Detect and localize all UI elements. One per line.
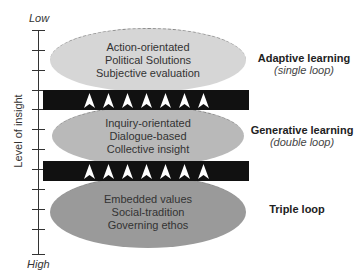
label-subtitle: (double loop)	[246, 136, 358, 148]
generative-learning-label: Generative learning (double loop)	[246, 124, 358, 148]
arrow-up-icon	[103, 164, 114, 179]
axis-high-label: High	[27, 258, 50, 270]
axis-tick	[32, 50, 45, 51]
layer-line: Action-orientated	[96, 41, 200, 54]
axis-tick	[32, 189, 45, 190]
label-subtitle: (single loop)	[250, 64, 358, 76]
axis-tick	[32, 129, 45, 130]
arrow-up-icon	[84, 93, 95, 108]
axis-tick	[32, 229, 45, 230]
axis-low-label: Low	[29, 12, 49, 24]
layer-line: Embedded values	[104, 193, 192, 206]
axis-tick	[32, 70, 45, 71]
layer-line: Governing ethos	[104, 219, 192, 232]
transition-band-upper	[43, 90, 249, 110]
arrow-up-icon	[198, 164, 209, 179]
arrow-up-icon	[198, 93, 209, 108]
layer-line: Collective insight	[105, 143, 191, 156]
adaptive-layer-ellipse: Action-orientated Political Solutions Su…	[50, 28, 246, 92]
axis-tick	[32, 254, 45, 255]
layer-line: Inquiry-orientated	[105, 117, 191, 130]
layer-line: Political Solutions	[96, 54, 200, 67]
arrow-up-icon	[160, 93, 171, 108]
arrow-up-icon	[122, 93, 133, 108]
layer-line: Dialogue-based	[105, 130, 191, 143]
arrow-up-icon	[160, 164, 171, 179]
layer-line: Social-tradition	[104, 206, 192, 219]
arrow-up-icon	[141, 93, 152, 108]
arrow-up-icon	[84, 164, 95, 179]
label-title: Generative learning	[246, 124, 358, 136]
transition-band-lower	[43, 161, 249, 181]
arrow-up-icon	[122, 164, 133, 179]
label-title: Adaptive learning	[250, 52, 358, 64]
arrow-up-icon	[141, 164, 152, 179]
arrow-up-icon	[179, 93, 190, 108]
arrow-up-icon	[179, 164, 190, 179]
label-title: Triple loop	[250, 203, 344, 215]
axis-tick	[32, 149, 45, 150]
axis-tick	[32, 209, 45, 210]
arrow-up-icon	[103, 93, 114, 108]
insight-axis-line	[38, 30, 39, 255]
axis-tick	[32, 30, 45, 31]
triple-loop-label: Triple loop	[250, 203, 344, 215]
axis-title: Level of insight	[12, 91, 24, 171]
adaptive-learning-label: Adaptive learning (single loop)	[250, 52, 358, 76]
generative-layer-ellipse: Inquiry-orientated Dialogue-based Collec…	[52, 106, 244, 166]
triple-loop-layer-ellipse: Embedded values Social-tradition Governi…	[50, 176, 246, 248]
layer-line: Subjective evaluation	[96, 67, 200, 80]
